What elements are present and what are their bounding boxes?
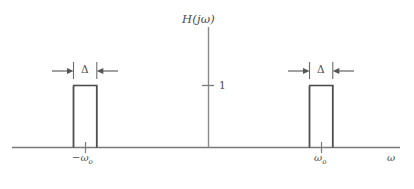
delta-label-right: Δ	[317, 64, 325, 75]
omega-negative-label: −ωo	[72, 153, 93, 166]
omega-negative-main: −ω	[72, 152, 89, 163]
omega-positive-subscript: o	[322, 158, 326, 166]
omega-axis-label: ω	[387, 153, 395, 163]
right-passband-rect	[309, 86, 334, 148]
amplitude-one-label: 1	[219, 80, 226, 91]
delta-label-left: Δ	[81, 64, 89, 75]
figure-canvas	[0, 0, 414, 189]
omega-positive-main: ω	[314, 152, 322, 163]
frequency-response-figure: H(jω) 1 Δ Δ −ωo ωo ω	[0, 0, 414, 189]
omega-positive-label: ωo	[314, 153, 326, 166]
left-passband-rect	[73, 86, 98, 148]
omega-negative-subscript: o	[89, 158, 93, 166]
transfer-function-title: H(jω)	[182, 14, 215, 26]
